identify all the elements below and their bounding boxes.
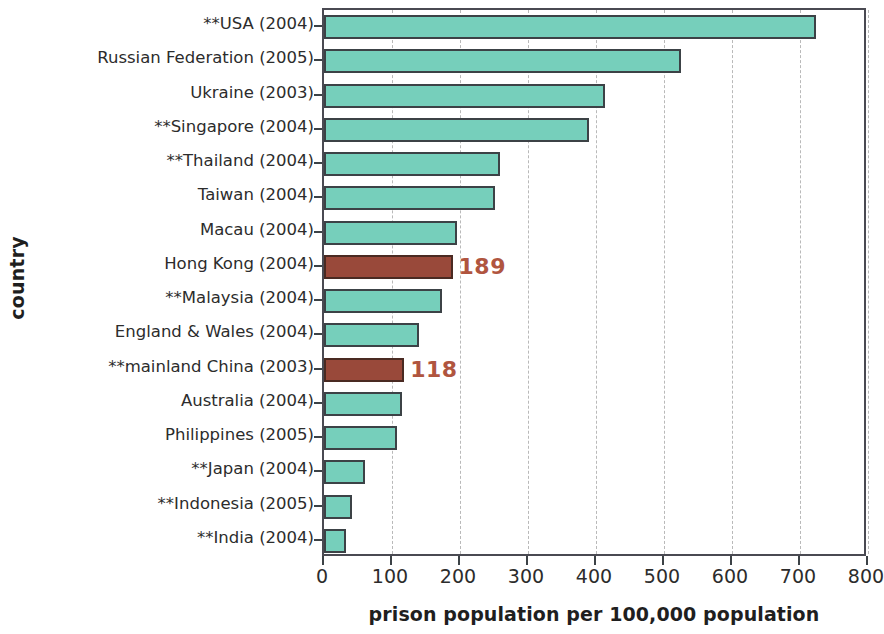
y-axis-tick	[314, 333, 322, 335]
y-axis-tick	[314, 436, 322, 438]
bar-row	[324, 289, 864, 313]
bar-row	[324, 84, 864, 108]
y-axis-tick	[314, 231, 322, 233]
bar	[324, 15, 816, 39]
bar-value-label: 189	[459, 254, 506, 279]
x-axis-tick-label: 500	[644, 565, 680, 587]
x-axis-tick	[798, 556, 800, 565]
bar-row	[324, 15, 864, 39]
x-axis-tick-label: 400	[576, 565, 612, 587]
bar-row	[324, 460, 864, 484]
bar-row	[324, 495, 864, 519]
x-axis-tick-label: 700	[780, 565, 816, 587]
bar	[324, 186, 495, 210]
bar-row	[324, 426, 864, 450]
bar	[324, 152, 500, 176]
bar-row: 118	[324, 358, 864, 382]
bar-row	[324, 49, 864, 73]
bar	[324, 426, 397, 450]
bar-row	[324, 221, 864, 245]
bar	[324, 460, 365, 484]
x-axis-tick	[866, 556, 868, 565]
y-axis-tick	[314, 59, 322, 61]
bar-row: 189	[324, 255, 864, 279]
bar	[324, 255, 453, 279]
y-axis-tick	[314, 539, 322, 541]
bar-row	[324, 323, 864, 347]
x-axis-tick-labels: 0100200300400500600700800	[0, 565, 882, 595]
x-axis-tick	[390, 556, 392, 565]
bar-row	[324, 392, 864, 416]
y-axis-tick	[314, 162, 322, 164]
y-axis-tick	[314, 25, 322, 27]
bar	[324, 221, 457, 245]
bar	[324, 529, 346, 553]
bar-row	[324, 118, 864, 142]
bar-rows: 189118	[324, 10, 864, 554]
x-axis-tick-label: 600	[712, 565, 748, 587]
x-axis-tick-label: 200	[440, 565, 476, 587]
x-axis-tick-label: 0	[316, 565, 328, 587]
bar	[324, 495, 352, 519]
bar	[324, 118, 589, 142]
x-axis-tick-label: 800	[848, 565, 884, 587]
x-axis-tick	[730, 556, 732, 565]
y-axis-tick	[314, 368, 322, 370]
y-axis-tick	[314, 265, 322, 267]
bar	[324, 289, 442, 313]
bar	[324, 323, 419, 347]
x-axis-title: prison population per 100,000 population	[322, 603, 866, 625]
bar-row	[324, 152, 864, 176]
x-axis-tick	[322, 556, 324, 565]
x-axis-tick	[526, 556, 528, 565]
x-axis-tick-label: 300	[508, 565, 544, 587]
x-axis-tick	[458, 556, 460, 565]
bar	[324, 358, 404, 382]
x-axis-tick	[662, 556, 664, 565]
y-axis-tick	[314, 470, 322, 472]
bar-row	[324, 186, 864, 210]
y-axis-tick	[314, 505, 322, 507]
x-axis-tick-label: 100	[372, 565, 408, 587]
bar-row	[324, 529, 864, 553]
plot-area: 189118	[322, 8, 866, 556]
gridline	[868, 10, 869, 554]
y-axis-ticks	[0, 8, 322, 556]
bar	[324, 392, 402, 416]
y-axis-tick	[314, 94, 322, 96]
x-axis-tick	[594, 556, 596, 565]
y-axis-tick	[314, 196, 322, 198]
y-axis-tick	[314, 402, 322, 404]
y-axis-tick	[314, 299, 322, 301]
bar	[324, 49, 681, 73]
bar	[324, 84, 605, 108]
y-axis-tick	[314, 128, 322, 130]
bar-value-label: 118	[410, 357, 457, 382]
